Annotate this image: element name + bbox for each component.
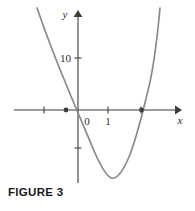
y-tick-label-10: 10 <box>60 52 72 64</box>
right-intercept-dot <box>139 108 144 113</box>
figure-container: y x 10 0 1 FIGURE 3 <box>0 0 195 211</box>
figure-caption: FIGURE 3 <box>8 186 63 198</box>
y-axis-label: y <box>62 8 68 20</box>
plot-area: y x 10 0 1 <box>0 0 195 185</box>
graph-svg: y x 10 0 1 <box>0 0 195 185</box>
y-axis-arrow-icon <box>74 10 83 17</box>
curve-path <box>37 8 160 178</box>
left-intercept-dot <box>64 108 69 113</box>
x-tick-label-1: 1 <box>105 115 111 127</box>
x-tick-label-0: 0 <box>84 115 90 127</box>
x-axis-label: x <box>177 114 183 126</box>
